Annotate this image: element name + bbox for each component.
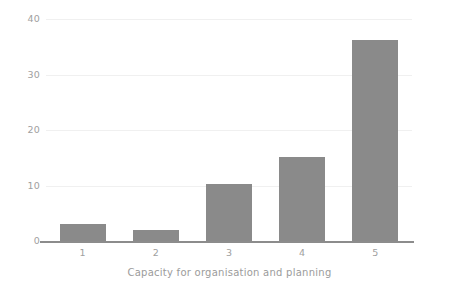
y-tick-label-20: 20 — [8, 125, 40, 135]
bar-1 — [60, 224, 106, 241]
bar-4 — [279, 157, 325, 241]
x-tick-label-5: 5 — [372, 248, 378, 258]
x-tick-label-2: 2 — [153, 248, 159, 258]
x-tick-label-4: 4 — [299, 248, 305, 258]
y-axis-tick-labels: 010203040 — [0, 0, 40, 289]
bar-2 — [133, 230, 179, 241]
y-tick-label-0: 0 — [8, 236, 40, 246]
y-tick-label-40: 40 — [8, 14, 40, 24]
x-axis-line — [40, 241, 414, 243]
y-tick-label-30: 30 — [8, 70, 40, 80]
plot-area — [46, 19, 412, 241]
x-tick-label-1: 1 — [79, 248, 85, 258]
x-tick-label-3: 3 — [226, 248, 232, 258]
x-axis-title: Capacity for organisation and planning — [0, 268, 459, 278]
y-tick-label-10: 10 — [8, 181, 40, 191]
bar-3 — [206, 184, 252, 241]
bar-5 — [352, 40, 398, 241]
y-axis-origin-tick — [40, 241, 46, 243]
bar-chart: 010203040 12345 Capacity for organisatio… — [0, 0, 459, 289]
gridline-40 — [46, 19, 412, 20]
